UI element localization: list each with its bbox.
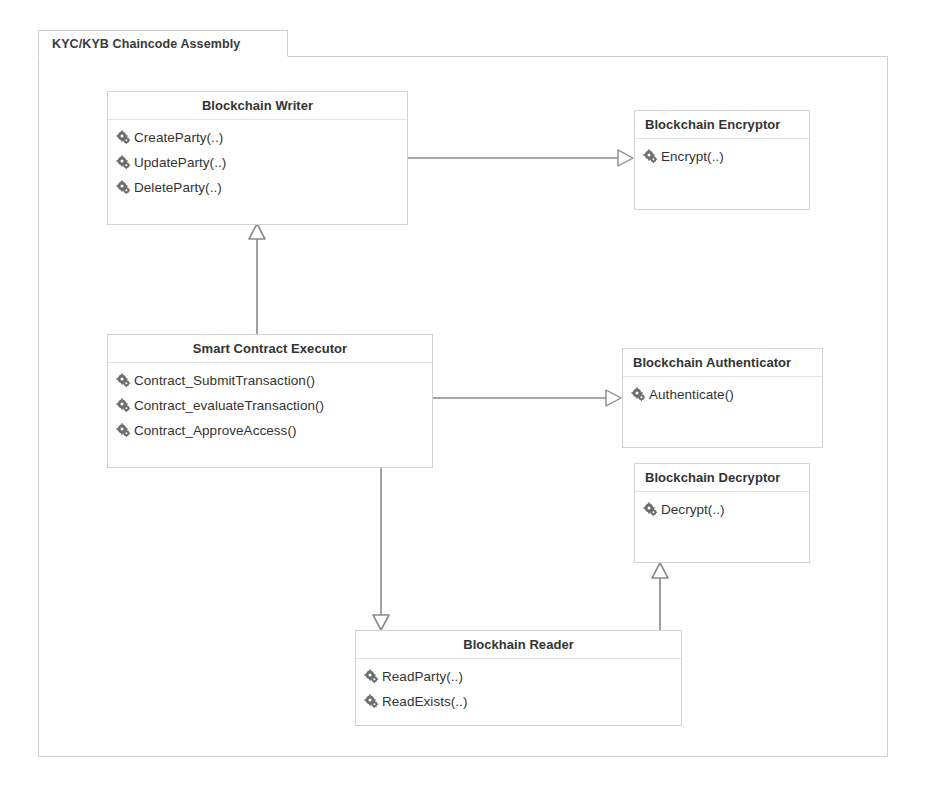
class-box-blockchain-writer[interactable]: Blockchain Writer CreateParty(..) Update… [107,91,408,225]
member-label: Encrypt(..) [661,149,724,164]
class-member[interactable]: Encrypt(..) [635,144,809,169]
class-members: Encrypt(..) [635,139,809,169]
member-label: UpdateParty(..) [134,155,226,170]
class-member[interactable]: ReadExists(..) [356,689,681,714]
assembly-tab[interactable]: KYC/KYB Chaincode Assembly [38,30,288,57]
class-members: Decrypt(..) [635,492,809,522]
gear-icon [364,669,379,684]
class-member[interactable]: DeleteParty(..) [108,175,407,200]
class-title: Blockhain Reader [356,631,681,659]
gear-icon [116,180,131,195]
class-member[interactable]: ReadParty(..) [356,664,681,689]
gear-icon [116,398,131,413]
member-label: Authenticate() [649,387,734,402]
gear-icon [116,423,131,438]
class-box-blockchain-decryptor[interactable]: Blockchain Decryptor Decrypt(..) [634,463,810,563]
gear-icon [116,130,131,145]
assembly-tab-label: KYC/KYB Chaincode Assembly [52,37,240,51]
member-label: ReadExists(..) [382,694,467,709]
class-title: Blockchain Decryptor [635,464,809,492]
class-member[interactable]: Contract_evaluateTransaction() [108,393,432,418]
class-member[interactable]: Contract_SubmitTransaction() [108,368,432,393]
class-member[interactable]: Decrypt(..) [635,497,809,522]
class-member[interactable]: Contract_ApproveAccess() [108,418,432,443]
member-label: ReadParty(..) [382,669,463,684]
member-label: Contract_ApproveAccess() [134,423,297,438]
class-box-smart-contract-executor[interactable]: Smart Contract Executor Contract_SubmitT… [107,334,433,468]
gear-icon [116,155,131,170]
class-member[interactable]: CreateParty(..) [108,125,407,150]
class-members: Authenticate() [623,377,822,407]
gear-icon [631,387,646,402]
gear-icon [643,502,658,517]
member-label: DeleteParty(..) [134,180,222,195]
gear-icon [116,373,131,388]
member-label: CreateParty(..) [134,130,223,145]
gear-icon [643,149,658,164]
class-title: Smart Contract Executor [108,335,432,363]
class-box-blockchain-encryptor[interactable]: Blockchain Encryptor Encrypt(..) [634,110,810,210]
member-label: Decrypt(..) [661,502,725,517]
member-label: Contract_SubmitTransaction() [134,373,315,388]
class-title: Blockchain Writer [108,92,407,120]
class-members: ReadParty(..) ReadExists(..) [356,659,681,714]
class-members: Contract_SubmitTransaction() Contract_ev… [108,363,432,443]
class-title: Blockchain Encryptor [635,111,809,139]
class-title: Blockchain Authenticator [623,349,822,377]
member-label: Contract_evaluateTransaction() [134,398,324,413]
gear-icon [364,694,379,709]
class-members: CreateParty(..) UpdateParty(..) DeletePa… [108,120,407,200]
class-box-blockhain-reader[interactable]: Blockhain Reader ReadParty(..) ReadExist… [355,630,682,726]
class-member[interactable]: UpdateParty(..) [108,150,407,175]
class-member[interactable]: Authenticate() [623,382,822,407]
class-box-blockchain-authenticator[interactable]: Blockchain Authenticator Authenticate() [622,348,823,448]
